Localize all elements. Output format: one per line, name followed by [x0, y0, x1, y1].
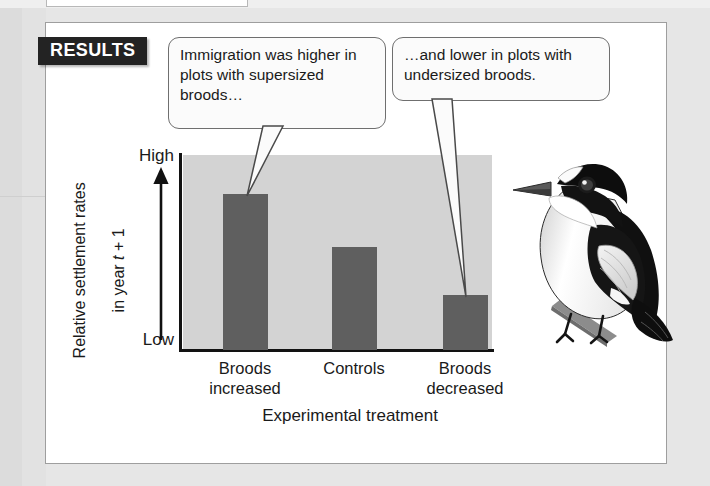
y-axis-line [179, 153, 182, 352]
callout-bubble-left: Immigration was higher in plots with sup… [168, 37, 386, 129]
y-axis-title-line1: Relative settlement rates [71, 182, 88, 358]
collared-flycatcher-icon [495, 138, 675, 353]
bar-controls [332, 247, 377, 350]
x-tick-label-0: Broods increased [185, 358, 305, 398]
x-axis-title: Experimental treatment [185, 406, 515, 426]
callout-bubble-right: …and lower in plots with undersized broo… [392, 37, 610, 101]
figure-root: High Low Relative settlement rates in ye… [0, 0, 710, 486]
y-axis-title-line2-italic: t [109, 255, 126, 259]
y-axis-title-line2-suffix: + 1 [109, 228, 126, 255]
bar-broods-increased [223, 194, 268, 350]
x-tick-label-1: Controls [294, 358, 414, 378]
y-axis-title-line2-prefix: in year [109, 260, 126, 312]
y-axis-title: Relative settlement rates in year t + 1 [51, 160, 128, 380]
bar-broods-decreased [443, 295, 488, 350]
page-hairline [0, 196, 46, 197]
page-margin-band-outer [0, 0, 22, 486]
adjacent-figure-edge [46, 0, 248, 7]
y-axis-direction-arrow [150, 165, 172, 340]
bird-beak-lower [513, 189, 551, 196]
results-badge: RESULTS [38, 37, 147, 65]
x-tick-label-2: Broods decreased [405, 358, 525, 398]
page-margin-band-inner [22, 0, 46, 486]
